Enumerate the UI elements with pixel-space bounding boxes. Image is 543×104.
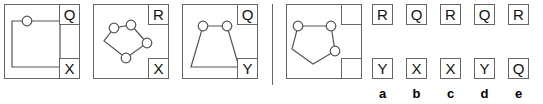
figure-node (222, 21, 232, 31)
panel-3-bottom-label: Y (237, 58, 258, 79)
option-c-top-box[interactable]: R (440, 4, 461, 25)
figure-node (142, 38, 152, 48)
figure-node (109, 23, 119, 33)
option-c-bottom-box[interactable]: X (440, 58, 461, 79)
option-a-top-box[interactable]: R (372, 4, 393, 25)
figure-node (330, 46, 340, 56)
panel-1-bottom-label: X (59, 58, 80, 79)
question-panel-bottom-label (341, 58, 362, 79)
option-a-letter[interactable]: a (372, 86, 393, 101)
option-e-top-box[interactable]: R (508, 4, 529, 25)
figure-node (326, 21, 336, 31)
question-panel-top-label (341, 4, 362, 25)
square-outline (12, 21, 60, 67)
option-d-top-box[interactable]: Q (474, 4, 495, 25)
panel-3-top-label: Q (237, 4, 258, 25)
figure-node (126, 20, 136, 30)
option-b-top-box[interactable]: Q (406, 4, 427, 25)
puzzle-canvas: Q X R X Q Y R Y a (0, 0, 543, 104)
option-c-letter[interactable]: c (440, 86, 461, 101)
option-a-bottom-box[interactable]: Y (372, 58, 393, 79)
trapezoid-outline (191, 26, 239, 67)
option-b-bottom-box[interactable]: X (406, 58, 427, 79)
section-divider (272, 4, 273, 85)
figure-node (22, 16, 32, 26)
panel-1-top-label: Q (59, 4, 80, 25)
figure-node (293, 21, 303, 31)
figure-node (198, 21, 208, 31)
option-d-bottom-box[interactable]: Y (474, 58, 495, 79)
figure-node (121, 53, 131, 63)
panel-2-bottom-label: X (148, 58, 169, 79)
option-b-letter[interactable]: b (406, 86, 427, 101)
panel-2-top-label: R (148, 4, 169, 25)
option-e-letter[interactable]: e (508, 86, 529, 101)
option-e-bottom-box[interactable]: Q (508, 58, 529, 79)
pentagon-outline (292, 26, 335, 64)
option-d-letter[interactable]: d (474, 86, 495, 101)
